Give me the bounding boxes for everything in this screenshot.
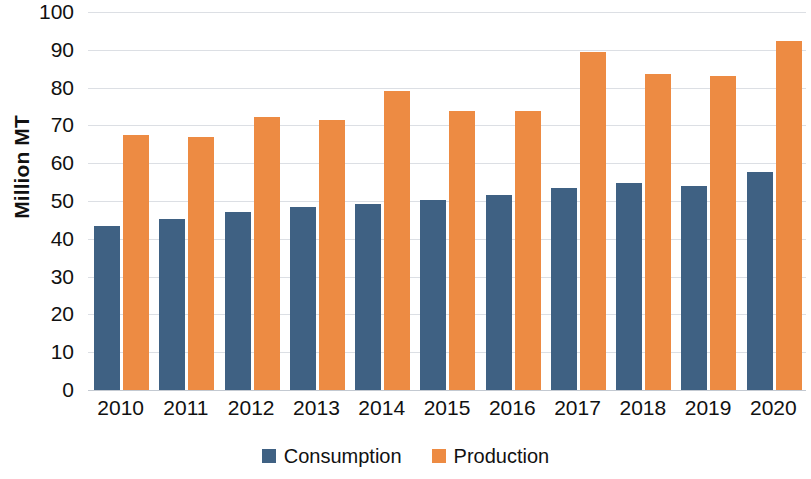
bar-group: [545, 12, 610, 390]
bar-production-2015: [449, 111, 475, 390]
x-axis-tick-label: 2016: [476, 396, 548, 420]
x-axis-tick-label: 2020: [737, 396, 809, 420]
bars-layer: [88, 12, 806, 390]
bar-production-2018: [645, 74, 671, 390]
bar-production-2011: [188, 137, 214, 390]
x-axis-tick-labels: 2010201120122013201420152016201720182019…: [88, 396, 806, 428]
bar-consumption-2013: [290, 207, 316, 390]
y-axis-tick-label: 40: [18, 227, 88, 251]
legend-item-production[interactable]: Production: [432, 446, 550, 466]
y-axis-tick-label: 10: [18, 340, 88, 364]
bar-production-2013: [319, 120, 345, 390]
x-axis-tick-label: 2012: [215, 396, 287, 420]
y-axis-tick-label: 100: [18, 0, 88, 24]
plot-area: 1009080706050403020100: [88, 12, 806, 390]
y-axis-tick-label: 50: [18, 189, 88, 213]
bar-group: [153, 12, 218, 390]
bar-production-2010: [123, 135, 149, 390]
bar-consumption-2010: [94, 226, 120, 390]
y-axis-tick-label: 60: [18, 151, 88, 175]
bar-group: [741, 12, 806, 390]
bar-production-2017: [580, 52, 606, 390]
x-axis-tick-label: 2014: [346, 396, 418, 420]
y-axis-tick-label: 70: [18, 113, 88, 137]
x-axis-tick-label: 2011: [150, 396, 222, 420]
bar-consumption-2019: [681, 186, 707, 390]
bar-group: [610, 12, 675, 390]
bar-consumption-2015: [420, 200, 446, 390]
bar-consumption-2012: [225, 212, 251, 390]
y-axis-tick-label: 80: [18, 76, 88, 100]
legend-label: Consumption: [284, 446, 402, 466]
bar-consumption-2016: [486, 195, 512, 390]
bar-consumption-2018: [616, 183, 642, 390]
bar-chart: Million MT 1009080706050403020100 201020…: [0, 0, 811, 479]
x-axis-tick-label: 2013: [280, 396, 352, 420]
x-axis-tick-label: 2017: [542, 396, 614, 420]
bar-production-2012: [254, 117, 280, 390]
chart-legend: ConsumptionProduction: [0, 446, 811, 466]
y-axis-tick-label: 20: [18, 302, 88, 326]
bar-consumption-2011: [159, 219, 185, 390]
bar-group: [480, 12, 545, 390]
bar-group: [88, 12, 153, 390]
y-axis-tick-label: 90: [18, 38, 88, 62]
y-axis-tick-label: 0: [18, 378, 88, 402]
bar-production-2019: [710, 76, 736, 390]
bar-consumption-2020: [747, 172, 773, 390]
x-axis-tick-label: 2018: [607, 396, 679, 420]
legend-item-consumption[interactable]: Consumption: [262, 446, 402, 466]
legend-swatch-icon: [432, 449, 446, 463]
bar-group: [284, 12, 349, 390]
bar-group: [219, 12, 284, 390]
legend-label: Production: [454, 446, 550, 466]
bar-consumption-2017: [551, 188, 577, 390]
bar-production-2020: [776, 41, 802, 390]
x-axis-tick-label: 2010: [85, 396, 157, 420]
bar-production-2016: [515, 111, 541, 390]
bar-production-2014: [384, 91, 410, 390]
bar-group: [349, 12, 414, 390]
bar-group: [675, 12, 740, 390]
gridline: [88, 390, 806, 391]
bar-consumption-2014: [355, 204, 381, 390]
x-axis-tick-label: 2015: [411, 396, 483, 420]
y-axis-tick-label: 30: [18, 265, 88, 289]
x-axis-tick-label: 2019: [672, 396, 744, 420]
bar-group: [414, 12, 479, 390]
legend-swatch-icon: [262, 449, 276, 463]
